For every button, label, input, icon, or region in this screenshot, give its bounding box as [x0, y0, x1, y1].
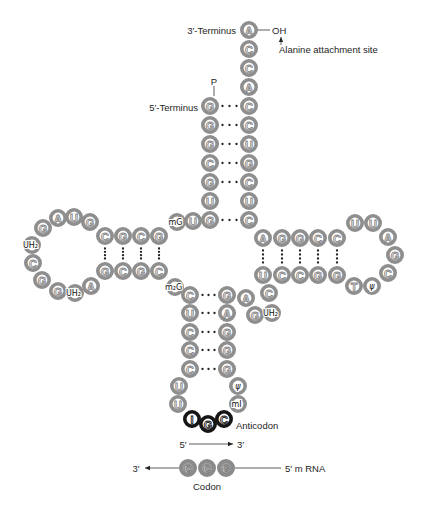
pair-dot — [158, 254, 160, 256]
base-letter: G — [38, 275, 47, 287]
nucleotide-t-loop: ψ — [365, 279, 379, 293]
modified-base-label: m₂G — [165, 283, 182, 292]
mrna-5prime-label: 5′ m RNA — [285, 463, 326, 474]
nucleotide-d-arm-connector: U — [186, 214, 200, 228]
nucleotide-acceptor-stem-3prime: G — [242, 156, 256, 170]
base-letter: U — [186, 308, 194, 320]
nucleotide-acceptor-stem-5prime: G — [203, 118, 217, 132]
base-letter: G — [245, 158, 254, 170]
pair-dot — [140, 247, 142, 249]
pair-dot — [221, 219, 223, 221]
nucleotide-acceptor-stem-5prime: U — [203, 194, 217, 208]
base-letter: C — [245, 177, 253, 189]
nucleotide-d-stem-top: C — [134, 229, 148, 243]
codon-label: Codon — [193, 481, 221, 492]
nucleotide-t-loop: U — [348, 216, 362, 230]
pair-dot — [104, 247, 106, 249]
pair-dot — [317, 249, 319, 251]
base-pair-anticodon — [201, 331, 215, 333]
pair-dot — [262, 249, 264, 251]
pair-dot — [235, 181, 237, 183]
pair-dot — [213, 331, 215, 333]
base-letter: G — [204, 419, 213, 431]
base-letter: G — [223, 327, 232, 339]
nucleotide-anticodon-stem-3prime: G — [220, 325, 234, 339]
base-letter: C — [245, 215, 253, 227]
pair-dot — [221, 162, 223, 164]
base-letter: G — [206, 177, 215, 189]
pair-dot — [228, 143, 230, 145]
nucleotide-acceptor-stem-5prime: G — [203, 137, 217, 151]
nucleotide-t-stem-3prime: G — [293, 231, 307, 245]
nucleotide-variable-loop: A — [239, 291, 253, 305]
nucleotide-t-stem-3prime: C — [330, 231, 344, 245]
pair-dot — [213, 349, 215, 351]
anticodon-label: Anticodon — [236, 420, 278, 431]
pair-dot — [336, 261, 338, 263]
base-letter: A — [54, 213, 62, 225]
base-letter: C — [186, 290, 194, 302]
base-letter: A — [384, 232, 392, 244]
base-pair-anticodon — [201, 312, 215, 314]
pair-dot — [122, 257, 124, 259]
phosphate-label: P — [211, 76, 217, 87]
alanine-attachment-label: Alanine attachment site — [279, 44, 378, 55]
nucleotide-d-loop: A — [51, 211, 65, 225]
nucleotide-variable-loop: UH₂ — [263, 306, 279, 320]
five-prime-terminus-label: 5′-Terminus — [149, 102, 198, 113]
nucleotide-mrna-codon: G — [219, 461, 233, 475]
pair-dot — [207, 312, 209, 314]
nucleotide-anticodon-stem-5prime: U — [183, 306, 197, 320]
pair-dot — [207, 331, 209, 333]
pair-dot — [317, 253, 319, 255]
pair-dot — [221, 143, 223, 145]
base-letter: C — [186, 327, 194, 339]
pair-dot — [104, 251, 106, 253]
pair-dot — [122, 251, 124, 253]
mrna-3prime-label: 3′ — [132, 463, 139, 474]
base-letter: C — [245, 120, 253, 132]
nucleotide-mrna-codon: C — [200, 461, 214, 475]
modified-base-label: mI — [231, 400, 241, 409]
pair-dot — [336, 249, 338, 251]
base-letter: G — [223, 364, 232, 376]
nucleotide-d-loop: G — [51, 284, 65, 298]
nucleotide-d-stem-top: G — [116, 229, 130, 243]
nucleotide-acceptor-stem-5prime: G — [203, 175, 217, 189]
nucleotide-d-loop: G — [83, 215, 97, 229]
base-letter: C — [333, 233, 341, 245]
nucleotide-variable-loop: C — [262, 286, 276, 300]
pair-dot — [281, 261, 283, 263]
nucleotide-acceptor-stem-3prime: C — [242, 213, 256, 227]
base-letter: G — [86, 217, 95, 229]
base-letter: C — [101, 231, 109, 243]
pair-dot — [299, 249, 301, 251]
base-letter: G — [206, 101, 215, 113]
connector-lines — [145, 30, 281, 468]
nucleotide-acceptor-stem-3prime: A — [242, 23, 256, 37]
pair-dot — [336, 257, 338, 259]
base-letter: C — [186, 364, 194, 376]
pair-dot — [207, 294, 209, 296]
base-letter: I — [190, 414, 193, 426]
base-letter: A — [87, 281, 95, 293]
base-letter: G — [278, 233, 287, 245]
pair-dot — [201, 368, 203, 370]
nucleotide-d-loop: UH₂ — [66, 286, 82, 300]
base-letter: A — [259, 233, 267, 245]
nucleotide-d-stem-bottom: C — [152, 264, 166, 278]
nucleotide-t-stem-3prime: G — [275, 231, 289, 245]
base-letter: U — [259, 270, 267, 282]
pair-dot — [235, 143, 237, 145]
pair-dot — [228, 181, 230, 183]
nucleotide-t-stem-5prime: G — [330, 268, 344, 282]
label-layer: 3′-TerminusOHAlanine attachment siteP5′-… — [132, 25, 377, 492]
pair-dot — [158, 257, 160, 259]
pair-dot — [262, 253, 264, 255]
modified-base-label: ψ — [369, 282, 375, 291]
nucleotide-d-stem-bottom: G — [98, 264, 112, 278]
base-letter: G — [223, 290, 232, 302]
nucleotide-acceptor-stem-3prime: C — [242, 175, 256, 189]
base-letter: A — [245, 82, 253, 94]
base-letter: G — [333, 270, 342, 282]
